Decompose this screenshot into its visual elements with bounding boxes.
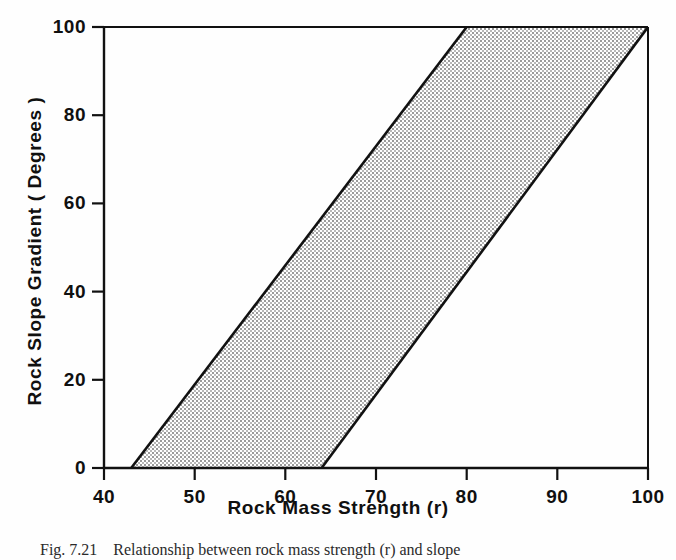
- figure-container: 0 20 40 60 80 100 40 50 60 70 80 90 100 …: [0, 0, 676, 560]
- y-axis-ticks: [92, 27, 104, 468]
- y-axis-title: Rock Slope Gradient ( Degrees ): [24, 11, 46, 491]
- figure-number: Fig. 7.21: [40, 541, 97, 558]
- plot-area: 0 20 40 60 80 100 40 50 60 70 80 90 100 …: [0, 0, 676, 500]
- figure-caption: Fig. 7.21 Relationship between rock mass…: [40, 540, 660, 560]
- shaded-envelope-band: [131, 27, 648, 468]
- x-axis-title: Rock Mass Strength (r): [0, 497, 676, 519]
- figure-caption-text: Relationship between rock mass strength …: [113, 541, 460, 558]
- chart-canvas: [0, 0, 676, 500]
- x-axis-ticks: [104, 468, 648, 480]
